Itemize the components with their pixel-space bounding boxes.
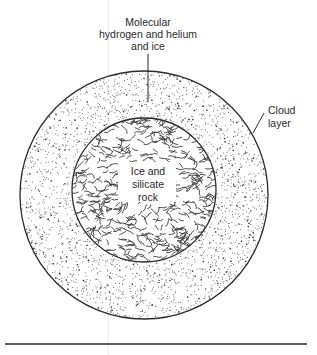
stipple-dot [227,181,228,182]
stipple-dot [218,229,219,230]
stipple-dot [75,247,76,248]
stipple-dot [258,200,259,201]
stipple-dot [199,135,200,136]
stipple-dot [111,278,112,279]
stipple-dot [131,296,132,297]
stipple-dot [251,231,252,232]
stipple-dot [151,100,152,101]
stipple-dot [42,186,43,187]
stipple-dot [100,292,101,293]
stipple-dot [212,155,213,156]
stipple-dot [218,207,219,208]
stipple-dot [126,316,127,317]
stipple-dot [122,116,123,117]
stipple-dot [238,188,239,189]
stipple-dot [49,140,50,141]
stipple-dot [244,235,245,236]
stipple-dot [236,225,237,226]
stipple-dot [31,162,32,163]
stipple-dot [107,260,108,261]
stipple-dot [149,282,150,283]
stipple-dot [67,110,68,111]
stipple-dot [66,104,67,105]
stipple-dot [118,260,119,261]
stipple-dot [65,107,66,108]
stipple-dot [251,235,252,236]
stipple-dot [173,121,174,122]
stipple-dot [210,266,211,267]
stipple-dot [91,137,92,138]
stipple-dot [93,114,94,115]
stipple-dot [220,220,221,221]
stipple-dot [85,139,86,140]
stipple-dot [140,311,141,312]
stipple-dot [46,240,47,241]
stipple-dot [213,104,214,105]
stipple-dot [201,244,202,245]
stipple-dot [75,120,76,121]
stipple-dot [233,183,234,184]
stipple-dot [222,217,223,218]
stipple-dot [229,276,230,277]
stipple-dot [177,92,178,93]
stipple-dot [220,130,221,131]
stipple-dot [227,180,228,181]
stipple-dot [55,277,56,278]
stipple-dot [239,169,240,170]
stipple-dot [159,298,160,299]
stipple-dot [175,256,176,257]
stipple-dot [144,285,145,286]
stipple-dot [214,256,215,257]
stipple-dot [243,143,244,144]
stipple-dot [218,223,219,224]
stipple-dot [111,91,112,92]
stipple-dot [61,238,62,239]
stipple-dot [69,241,70,242]
stipple-dot [66,167,67,168]
stipple-dot [186,103,187,104]
stipple-dot [113,102,114,103]
stipple-dot [137,273,138,274]
stipple-dot [238,223,239,224]
stipple-dot [41,173,42,174]
stipple-dot [249,187,250,188]
stipple-dot [100,106,101,107]
stipple-dot [56,158,57,159]
stipple-dot [243,210,244,211]
stipple-dot [191,265,192,266]
stipple-dot [87,293,88,294]
stipple-dot [59,120,60,121]
stipple-dot [150,84,151,85]
stipple-dot [71,124,72,125]
stipple-dot [49,126,50,127]
stipple-dot [39,254,40,255]
stipple-dot [264,196,265,197]
stipple-dot [220,147,221,148]
stipple-dot [229,143,230,144]
stipple-dot [236,122,237,123]
stipple-dot [237,246,238,247]
stipple-dot [221,210,222,211]
stipple-dot [107,284,108,285]
stipple-dot [71,134,72,135]
stipple-dot [66,102,67,103]
stipple-dot [177,103,178,104]
stipple-dot [54,190,55,191]
stipple-dot [78,274,79,275]
stipple-dot [261,191,262,192]
stipple-dot [202,234,203,235]
stipple-dot [83,107,84,108]
stipple-dot [157,111,158,112]
stipple-dot [132,316,133,317]
stipple-dot [136,94,137,95]
stipple-dot [224,260,225,261]
stipple-dot [67,183,68,184]
stipple-dot [50,213,51,214]
stipple-dot [119,266,120,267]
stipple-dot [86,282,87,283]
stipple-dot [87,92,88,93]
stipple-dot [264,201,265,202]
stipple-dot [123,291,124,292]
stipple-dot [72,230,73,231]
stipple-dot [70,274,71,275]
